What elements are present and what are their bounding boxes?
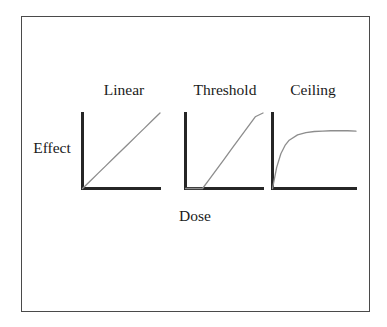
plot-panel-ceiling	[270, 110, 358, 190]
y-axis-label-effect: Effect	[24, 140, 80, 156]
panel-title-ceiling: Ceiling	[272, 82, 354, 98]
curve-ceiling	[273, 131, 357, 189]
x-axis-label-dose: Dose	[160, 208, 230, 224]
curve-threshold	[186, 113, 264, 189]
panel-title-linear: Linear	[80, 82, 168, 98]
curve-linear	[83, 113, 161, 189]
plot-panel-linear	[80, 110, 162, 190]
panel-title-threshold: Threshold	[178, 82, 272, 98]
plot-panel-threshold	[183, 110, 265, 190]
dose-response-figure: Effect Linear Threshold Ceiling Dose	[0, 0, 387, 327]
